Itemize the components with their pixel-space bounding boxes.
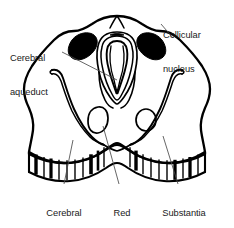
- label-red-nucleus-line1: Red: [99, 208, 145, 219]
- label-cerebral-aqueduct-line2: aqueduct: [10, 87, 48, 98]
- label-cerebral-peduncle-line1: Cerebral: [32, 208, 96, 219]
- aqueduct-roof-cap: [110, 34, 124, 36]
- label-cerebral-aqueduct: Cerebral aqueduct: [10, 31, 48, 121]
- label-substantia-nigra: Substantia nigra: [152, 186, 216, 228]
- label-collicular-nucleus: Collicular nucleus: [163, 8, 201, 98]
- midbrain-diagram-figure: Cerebral aqueduct Collicular nucleus Cer…: [0, 0, 234, 228]
- label-red-nucleus: Red nucleus: [99, 186, 145, 228]
- label-cerebral-peduncle: Cerebral peduncle: [32, 186, 96, 228]
- label-cerebral-aqueduct-line1: Cerebral: [10, 53, 48, 64]
- label-substantia-nigra-line1: Substantia: [152, 208, 216, 219]
- label-collicular-nucleus-line2: nucleus: [163, 64, 201, 75]
- label-collicular-nucleus-line1: Collicular: [163, 30, 201, 41]
